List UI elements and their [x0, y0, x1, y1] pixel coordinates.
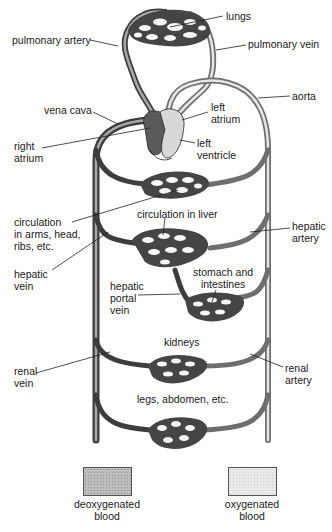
leader-lines	[36, 16, 290, 373]
label-legs-abdomen: legs, abdomen, etc.	[137, 393, 229, 405]
label-pulmonary-vein: pulmonary vein	[248, 38, 319, 50]
liver-capillary-network	[132, 228, 208, 267]
circulation-diagram	[0, 0, 332, 532]
label-stomach-intestines: stomach and intestines	[193, 266, 253, 290]
label-kidneys: kidneys	[164, 336, 200, 348]
label-lungs: lungs	[226, 10, 251, 22]
label-right-atrium: right atrium	[14, 140, 43, 164]
label-hepatic-portal-vein: hepatic portal vein	[110, 280, 144, 316]
label-hepatic-vein: hepatic vein	[14, 268, 48, 292]
label-left-ventricle: left ventricle	[197, 137, 236, 161]
label-vena-cava: vena cava	[44, 104, 92, 116]
legend-swatch-deoxygenated	[83, 467, 132, 496]
legend-label-oxygenated: oxygenated blood	[217, 498, 287, 522]
heart	[144, 109, 184, 160]
stomach-capillary-network	[185, 293, 244, 322]
label-renal-artery: renal artery	[285, 362, 312, 386]
label-hepatic-artery: hepatic artery	[292, 220, 326, 244]
kidneys-capillary-network	[148, 355, 207, 383]
label-renal-vein: renal vein	[14, 365, 37, 389]
label-pulmonary-artery: pulmonary artery	[12, 34, 91, 46]
label-left-atrium: left atrium	[211, 101, 240, 125]
label-circulation-in-liver: circulation in liver	[137, 208, 218, 220]
legend-label-deoxygenated: deoxygenated blood	[72, 498, 142, 522]
legs-capillary-network	[148, 417, 207, 449]
label-circulation-arms-head: circulation in arms, head, ribs, etc.	[14, 216, 81, 252]
arms-head-capillary-network	[140, 172, 209, 199]
legend-swatch-oxygenated	[228, 467, 277, 496]
label-aorta: aorta	[292, 90, 316, 102]
